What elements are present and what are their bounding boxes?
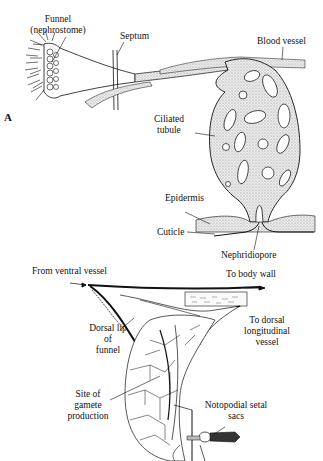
- label-epidermis: Epidermis: [165, 193, 204, 204]
- panel-label-a: A: [4, 112, 12, 123]
- label-septum: Septum: [120, 31, 149, 42]
- label-of: of: [78, 334, 138, 345]
- label-production: production: [58, 411, 118, 422]
- label-longitudinal: longitudinal: [232, 326, 302, 337]
- label-nephridiopore: Nephridiopore: [221, 250, 276, 261]
- label-tubule: tubule: [157, 125, 181, 136]
- label-funnel-b: funnel: [78, 345, 138, 356]
- label-nephrostome: (nephrostome): [22, 25, 94, 36]
- label-vessel: vessel: [232, 337, 302, 348]
- label-site-of: Site of: [58, 389, 118, 400]
- label-to-dorsal: To dorsal: [232, 315, 302, 326]
- label-funnel: Funnel: [28, 14, 88, 25]
- label-blood-vessel: Blood vessel: [257, 36, 306, 47]
- label-dorsal-lip: Dorsal lip: [78, 323, 138, 334]
- label-from-ventral-vessel: From ventral vessel: [32, 266, 107, 277]
- label-notopodial-setal: Notopodial setal: [196, 400, 276, 411]
- label-cuticle: Cuticle: [157, 227, 184, 238]
- label-sacs: sacs: [196, 411, 276, 422]
- label-gamete: gamete: [58, 400, 118, 411]
- body-wall-block: [185, 292, 247, 306]
- label-to-body-wall: To body wall: [226, 269, 276, 280]
- label-ciliated: Ciliated: [154, 114, 184, 125]
